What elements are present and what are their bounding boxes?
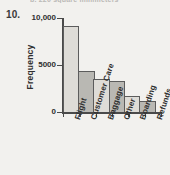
x-axis-category-labels: FlightCustomer CareBaggageOtherBoardingR…	[63, 118, 161, 175]
y-tick-label-0: 0	[45, 107, 56, 116]
x-tick-0	[63, 112, 64, 117]
bar-flight	[63, 26, 79, 112]
y-tick-label-5000: 5000	[33, 60, 56, 69]
exercise-figure: b. 220 square millimeters 10. 10,000 500…	[0, 0, 170, 175]
bar-chart: 10,000 5000 0 Frequency FlightCustomer C…	[0, 0, 170, 175]
y-axis-title: Frequency	[25, 31, 35, 103]
y-tick-label-10000: 10,000	[30, 13, 56, 22]
